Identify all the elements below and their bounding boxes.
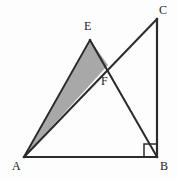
geometry-figure: A B C E F (0, 0, 178, 179)
segment-EB (90, 40, 157, 157)
shaded-triangle-AEF (24, 40, 108, 157)
vertex-label-a: A (12, 160, 21, 172)
vertex-label-c: C (159, 4, 167, 16)
vertex-label-f: F (101, 75, 108, 87)
vertex-label-e: E (84, 20, 91, 32)
vertex-label-b: B (160, 160, 168, 172)
